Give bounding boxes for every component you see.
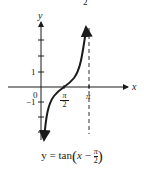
x-axis-label: x <box>132 82 136 92</box>
x-tick-label-pi: π <box>86 91 91 101</box>
y-tick-label-1: 1 <box>31 68 36 77</box>
tan-curve-top-arrow <box>86 27 87 34</box>
function-caption: y = tan(x − π2) <box>0 148 144 165</box>
y-axis-label: y <box>38 11 42 21</box>
tan-curve <box>44 30 86 140</box>
plot-area <box>0 0 144 169</box>
y-tick-label-neg1: −1 <box>26 98 36 107</box>
x-tick-label-half-pi: π 2 <box>60 92 69 109</box>
